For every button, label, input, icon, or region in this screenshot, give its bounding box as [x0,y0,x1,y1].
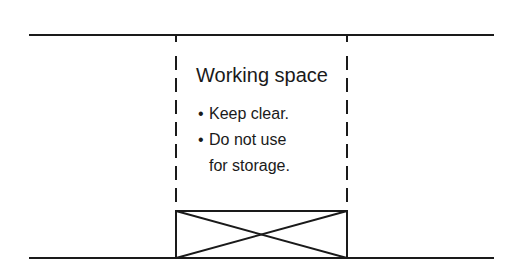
bullet-continuation: for storage. [198,153,290,179]
bullet-text: Keep clear. [209,105,289,122]
bullet-list: • Keep clear. • Do not use for storage. [198,101,290,179]
bullet-text: Do not use [209,131,286,148]
bullet-icon: • [198,127,204,153]
working-space-title: Working space [178,64,346,87]
bullet-icon: • [198,101,204,127]
bullet-item: • Do not use [198,127,290,153]
bullet-item: • Keep clear. [198,101,290,127]
